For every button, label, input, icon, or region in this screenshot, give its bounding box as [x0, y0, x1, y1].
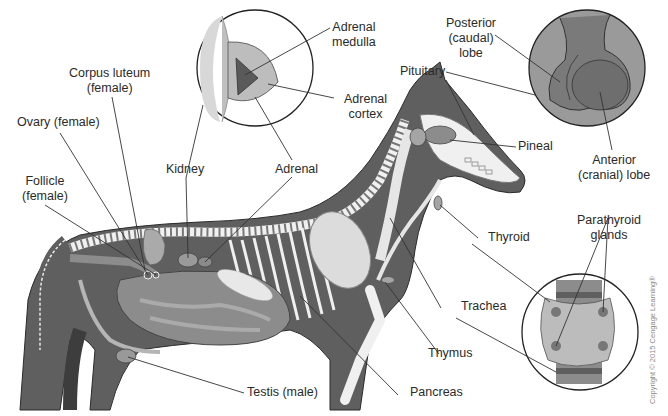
- label-ovary: Ovary (female): [17, 115, 100, 130]
- label-pancreas: Pancreas: [410, 385, 463, 400]
- label-corpus-luteum-line1: Corpus luteum: [69, 66, 150, 81]
- label-adrenal: Adrenal: [275, 162, 318, 177]
- label-anterior-lobe: Anterior (cranial) lobe: [578, 153, 650, 183]
- label-posterior-lobe-line1: Posterior: [446, 16, 496, 31]
- label-follicle: Follicle (female): [22, 174, 68, 204]
- label-pituitary: Pituitary: [400, 64, 445, 79]
- label-corpus-luteum: Corpus luteum (female): [69, 66, 150, 96]
- label-pineal: Pineal: [518, 139, 553, 154]
- adrenal-inset: [197, 10, 313, 126]
- label-parathyroid-line1: Parathyroid: [577, 213, 641, 228]
- thymus-small: [382, 277, 394, 283]
- label-anterior-lobe-line1: Anterior: [578, 153, 650, 168]
- horse-illustration: [0, 0, 668, 416]
- label-anterior-lobe-line2: (cranial) lobe: [578, 168, 650, 183]
- label-posterior-lobe-line2: (caudal): [446, 31, 496, 46]
- testis-small: [116, 349, 136, 363]
- label-kidney: Kidney: [166, 162, 204, 177]
- label-parathyroid: Parathyroid glands: [577, 213, 641, 243]
- label-corpus-luteum-line2: (female): [69, 81, 150, 96]
- thyroid-inset: [522, 274, 638, 390]
- label-thymus: Thymus: [428, 346, 472, 361]
- label-adrenal-cortex-line1: Adrenal: [344, 92, 387, 107]
- label-follicle-line1: Follicle: [22, 174, 68, 189]
- label-follicle-line2: (female): [22, 189, 68, 204]
- brain: [424, 126, 456, 144]
- label-thyroid: Thyroid: [488, 230, 530, 245]
- thyroid-small: [434, 196, 442, 210]
- label-adrenal-cortex-line2: cortex: [344, 107, 387, 122]
- endocrine-diagram: Corpus luteum (female) Ovary (female) Fo…: [0, 0, 668, 416]
- label-adrenal-medulla-line2: medulla: [332, 35, 376, 50]
- label-testis: Testis (male): [247, 385, 318, 400]
- label-adrenal-medulla-line1: Adrenal: [332, 20, 376, 35]
- hindleg: [70, 330, 80, 410]
- label-adrenal-medulla: Adrenal medulla: [332, 20, 376, 50]
- pituitary-inset: [529, 10, 645, 126]
- label-adrenal-cortex: Adrenal cortex: [344, 92, 387, 122]
- label-posterior-lobe-line3: lobe: [446, 46, 496, 61]
- label-trachea: Trachea: [461, 299, 506, 314]
- copyright-notice: Copyright © 2015 Cengage Learning®: [648, 276, 657, 404]
- label-parathyroid-line2: glands: [577, 228, 641, 243]
- label-posterior-lobe: Posterior (caudal) lobe: [446, 16, 496, 61]
